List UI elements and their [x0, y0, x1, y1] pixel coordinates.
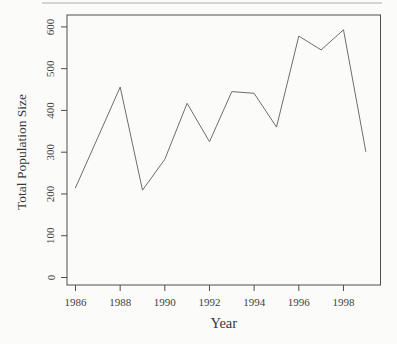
data-line [76, 30, 366, 190]
y-tick-label: 100 [45, 227, 57, 244]
y-tick-label: 0 [45, 274, 57, 280]
x-tick-label: 1994 [243, 296, 266, 308]
y-tick-label: 600 [45, 18, 57, 35]
y-tick-label: 300 [45, 143, 57, 160]
y-axis-label: Total Population Size [14, 94, 29, 210]
x-tick-label: 1990 [154, 296, 177, 308]
y-tick-label: 400 [45, 102, 57, 119]
y-tick-label: 500 [45, 60, 57, 77]
x-tick-label: 1998 [332, 296, 355, 308]
population-line-chart: 1986198819901992199419961998010020030040… [0, 0, 397, 344]
y-tick-label: 200 [45, 185, 57, 202]
x-tick-label: 1996 [288, 296, 311, 308]
x-tick-label: 1992 [198, 296, 220, 308]
figure-canvas: 1986198819901992199419961998010020030040… [0, 0, 397, 344]
x-tick-label: 1986 [65, 296, 88, 308]
x-axis-label: Year [210, 315, 237, 331]
plot-box [67, 15, 381, 285]
x-tick-label: 1988 [109, 296, 132, 308]
